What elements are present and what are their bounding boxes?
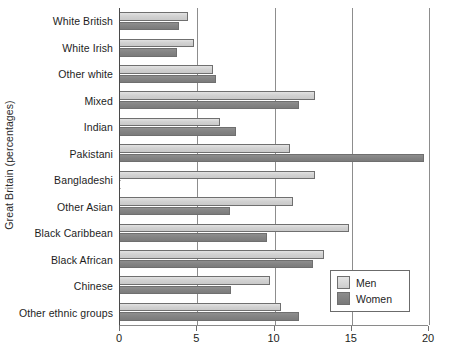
y-axis-title: Great Britain (percentages) — [0, 0, 18, 330]
bar-group — [120, 34, 428, 60]
bar-men — [120, 39, 194, 48]
x-axis-tick-label: 0 — [116, 332, 122, 344]
category-label-text: Other Asian — [57, 201, 113, 213]
bar-group — [120, 246, 428, 272]
bar-women — [120, 260, 313, 269]
bar-women — [120, 233, 267, 242]
bar-women — [120, 101, 299, 110]
bar-women — [120, 286, 231, 295]
category-label: Black African — [18, 247, 118, 274]
category-label-text: Black Caribbean — [34, 227, 113, 239]
category-label-text: White British — [53, 15, 113, 27]
y-axis-title-text: Great Britain (percentages) — [3, 100, 15, 229]
category-label: White Irish — [18, 35, 118, 62]
x-axis-tick-label: 10 — [267, 332, 279, 344]
bar-men — [120, 303, 281, 312]
bar-women — [120, 207, 230, 216]
category-label: Pakistani — [18, 141, 118, 168]
bar-men — [120, 65, 213, 74]
bar-women — [120, 180, 121, 189]
bar-women — [120, 154, 424, 163]
x-axis-tick-label: 20 — [422, 332, 434, 344]
category-label: Other ethnic groups — [18, 300, 118, 327]
category-axis-labels: White BritishWhite IrishOther whiteMixed… — [18, 8, 118, 326]
category-label: Chinese — [18, 273, 118, 300]
category-label: Indian — [18, 114, 118, 141]
category-label: Other Asian — [18, 194, 118, 221]
bar-group — [120, 219, 428, 245]
bar-group — [120, 140, 428, 166]
category-label-text: Other ethnic groups — [19, 307, 113, 319]
category-label-text: Other white — [58, 68, 113, 80]
x-axis-tick — [196, 326, 197, 331]
category-label-text: White Irish — [62, 42, 113, 54]
gridline — [429, 8, 430, 325]
bar-men — [120, 250, 324, 259]
bar-men — [120, 276, 270, 285]
bar-men — [120, 171, 315, 180]
bar-men — [120, 118, 220, 127]
bar-women — [120, 312, 299, 321]
legend-label: Men — [356, 277, 376, 289]
legend-swatch-women — [337, 292, 350, 305]
category-label: White British — [18, 8, 118, 35]
x-axis-tick — [119, 326, 120, 331]
bar-men — [120, 91, 315, 100]
legend-item: Men — [337, 276, 403, 289]
category-label: Other white — [18, 61, 118, 88]
bar-women — [120, 127, 236, 136]
x-axis-tick — [274, 326, 275, 331]
bar-men — [120, 197, 293, 206]
category-label: Mixed — [18, 88, 118, 115]
bar-men — [120, 144, 290, 153]
bar-group — [120, 167, 428, 193]
category-label-text: Black African — [51, 254, 113, 266]
bar-women — [120, 75, 216, 84]
bar-men — [120, 224, 349, 233]
category-label-text: Chinese — [74, 280, 113, 292]
category-label-text: Bangladeshi — [54, 174, 113, 186]
x-axis-tick — [428, 326, 429, 331]
legend-swatch-men — [337, 276, 350, 289]
category-label: Black Caribbean — [18, 220, 118, 247]
x-axis-tick-label: 15 — [345, 332, 357, 344]
bar-women — [120, 22, 179, 31]
legend: MenWomen — [330, 270, 410, 312]
category-label: Bangladeshi — [18, 167, 118, 194]
x-axis-tick-label: 5 — [193, 332, 199, 344]
bar-men — [120, 12, 188, 21]
bar-group — [120, 61, 428, 87]
bar-group — [120, 87, 428, 113]
bar-group — [120, 193, 428, 219]
x-axis-tick — [351, 326, 352, 331]
legend-label: Women — [356, 293, 392, 305]
bar-group — [120, 8, 428, 34]
legend-item: Women — [337, 292, 403, 305]
x-axis: 05101520 — [119, 326, 428, 350]
bar-women — [120, 48, 177, 57]
category-label-text: Mixed — [84, 95, 113, 107]
chart-root: Great Britain (percentages) White Britis… — [0, 0, 449, 355]
bar-group — [120, 114, 428, 140]
category-label-text: Indian — [84, 121, 113, 133]
category-label-text: Pakistani — [69, 148, 113, 160]
